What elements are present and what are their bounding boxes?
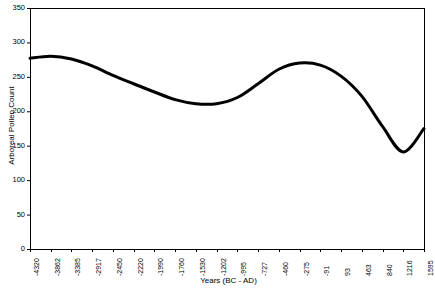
- x-axis-tick-label: -275: [303, 262, 310, 276]
- y-axis-tick-label: 300: [1, 37, 25, 46]
- x-axis-tick-label: -727: [261, 262, 268, 276]
- x-axis-tick-label: 93: [344, 268, 351, 276]
- y-axis-tick-label: 350: [1, 3, 25, 12]
- x-axis-title-label: Years (BC - AD): [178, 276, 257, 285]
- x-axis-tick-label: 1595: [427, 260, 434, 276]
- y-axis-tick-label: 50: [1, 210, 25, 219]
- x-axis-tick-label: 463: [365, 264, 372, 276]
- x-axis-tick-label: 1216: [406, 260, 413, 276]
- x-axis-tick-label: -91: [323, 266, 330, 276]
- y-axis-tick-label: 250: [1, 72, 25, 81]
- x-axis-tick-label: -2450: [116, 258, 123, 276]
- y-axis-tick-label: 0: [1, 244, 25, 253]
- y-axis-tick-label: 100: [1, 175, 25, 184]
- plot-area: [0, 0, 435, 294]
- x-axis-tick-label: -1202: [220, 258, 227, 276]
- x-axis-tick-label: -1990: [157, 258, 164, 276]
- x-axis-tick-label: -4320: [33, 258, 40, 276]
- pollen-count-chart: Arboreal Pollen Count Years (BC - AD) 05…: [0, 0, 435, 294]
- x-axis-tick-label: -2917: [95, 258, 102, 276]
- x-axis-tick-label: 840: [386, 264, 393, 276]
- chart-svg: [0, 0, 435, 294]
- x-axis-tick-label: -460: [282, 262, 289, 276]
- data-series-line: [30, 56, 424, 152]
- x-axis-tick-label: -995: [240, 262, 247, 276]
- x-axis-tick-label: -1760: [178, 258, 185, 276]
- x-axis-tick-label: -3385: [74, 258, 81, 276]
- x-axis-tick-label: -3862: [54, 258, 61, 276]
- x-axis-title: Years (BC - AD): [0, 276, 435, 285]
- x-axis-tick-label: -1530: [199, 258, 206, 276]
- x-axis-tick-label: -2220: [137, 258, 144, 276]
- plot-frame: [31, 9, 425, 250]
- y-axis-tick-label: 150: [1, 141, 25, 150]
- y-axis-tick-label: 200: [1, 106, 25, 115]
